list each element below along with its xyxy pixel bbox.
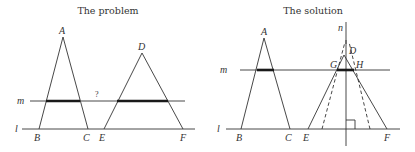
label-a: A: [260, 26, 268, 37]
problem-panel: The problem m l ? A B C D E F: [15, 5, 195, 143]
label-l: l: [217, 123, 220, 134]
label-h: H: [355, 59, 364, 70]
dashed-side-left: [322, 42, 345, 129]
label-f: F: [179, 132, 187, 143]
label-l: l: [15, 123, 18, 134]
label-d: D: [137, 41, 146, 52]
solution-panel: The solution m l n A B C D E F G H: [217, 5, 400, 146]
triangle-abc: [241, 38, 290, 129]
label-e: E: [302, 132, 309, 143]
triangle-abc: [39, 37, 88, 129]
label-a: A: [58, 25, 66, 36]
label-c: C: [83, 132, 90, 143]
label-m: m: [220, 64, 227, 75]
triangle-def: [104, 53, 183, 129]
triangle-def: [308, 55, 387, 129]
diagram-canvas: The problem m l ? A B C D E F The soluti…: [0, 0, 415, 152]
label-e: E: [98, 132, 105, 143]
label-d: D: [348, 45, 357, 56]
label-m: m: [17, 95, 24, 106]
label-b: B: [236, 132, 242, 143]
solution-title: The solution: [283, 5, 343, 16]
label-b: B: [34, 132, 40, 143]
label-c: C: [285, 132, 292, 143]
label-n: n: [338, 22, 343, 33]
label-g: G: [330, 59, 337, 70]
label-f: F: [383, 132, 391, 143]
right-angle-mark: [346, 120, 355, 129]
question-mark: ?: [95, 90, 99, 99]
problem-title: The problem: [77, 5, 138, 16]
